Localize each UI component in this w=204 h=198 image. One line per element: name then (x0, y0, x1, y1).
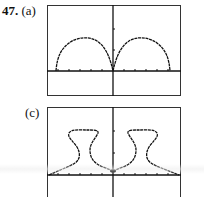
problem-number: 47. (2, 3, 18, 18)
graph-panel-a (47, 5, 181, 96)
graph-a-svg (47, 5, 181, 96)
right-arch-curve (113, 38, 170, 71)
left-arch-curve (56, 38, 113, 71)
problem-label-c: (c) (25, 105, 39, 121)
part-a-label: (a) (22, 3, 36, 18)
problem-label-a: 47. (a) (2, 3, 36, 19)
part-c-label: (c) (25, 105, 39, 120)
screen-frame (48, 108, 181, 198)
graph-panel-c (47, 107, 181, 197)
scan-artifact-band (0, 164, 204, 174)
graph-c-svg (47, 107, 181, 197)
